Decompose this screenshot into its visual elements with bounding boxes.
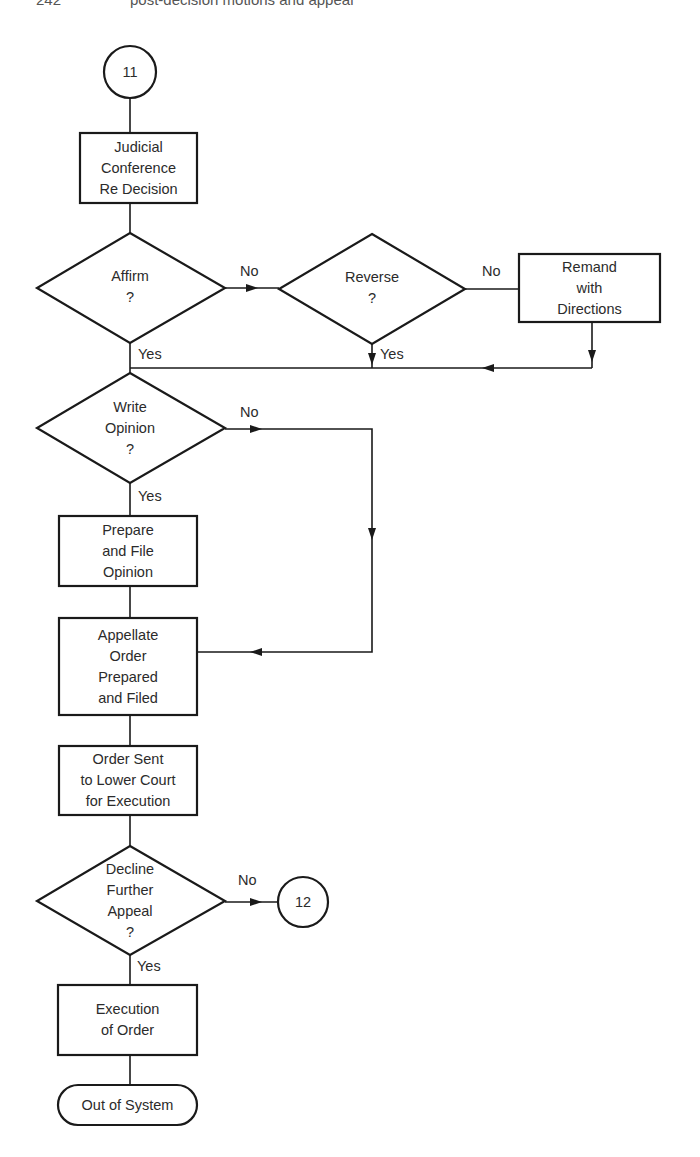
reverse-no-label: No	[482, 263, 501, 279]
out-of-system-label: Out of System	[58, 1085, 197, 1125]
affirm-no-label: No	[240, 263, 259, 279]
remand-label: Remand with Directions	[519, 254, 660, 322]
execution-label: Execution of Order	[58, 985, 197, 1055]
connector-11-label: 11	[104, 46, 156, 98]
appellate-order-label: Appellate Order Prepared and Filed	[59, 618, 197, 715]
write-no-label: No	[240, 404, 259, 420]
write-opinion-label: Write Opinion ?	[80, 395, 180, 461]
reverse-label: Reverse ?	[322, 263, 422, 313]
conference-label: Judicial Conference Re Decision	[80, 133, 197, 203]
affirm-yes-label: Yes	[138, 346, 162, 362]
reverse-yes-label: Yes	[380, 346, 404, 362]
connector-12-label: 12	[278, 877, 328, 927]
prepare-opinion-label: Prepare and File Opinion	[59, 516, 197, 586]
order-sent-label: Order Sent to Lower Court for Execution	[59, 746, 197, 815]
decline-appeal-label: Decline Further Appeal ?	[80, 858, 180, 944]
write-yes-label: Yes	[138, 488, 162, 504]
decline-yes-label: Yes	[137, 958, 161, 974]
decline-no-label: No	[238, 872, 257, 888]
affirm-label: Affirm ?	[80, 262, 180, 312]
